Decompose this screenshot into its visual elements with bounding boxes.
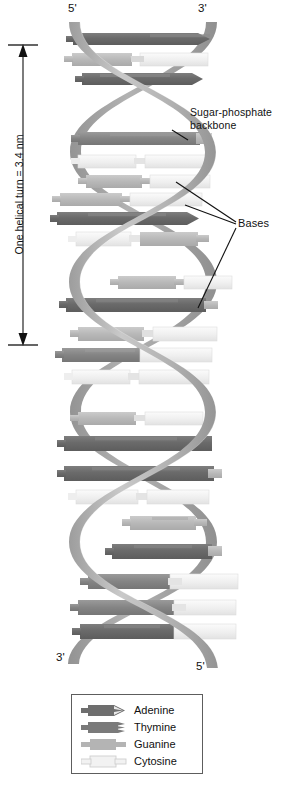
adenine-icon [81,703,127,718]
thymine-icon [81,720,127,735]
backbone-label-line-1: Sugar-phosphate [190,106,272,118]
label-5-prime-top: 5' [68,2,77,15]
legend-label-guanine: Guanine [134,738,176,751]
leader-backbone [172,130,188,140]
leader-bases-3 [198,228,236,308]
legend-label-thymine: Thymine [134,721,176,734]
cytosine-icon [81,754,127,769]
leader-bases-2 [185,205,236,224]
backbone-label-line-2: backbone [190,119,236,131]
legend: Adenine Thymine [71,694,203,774]
legend-item-thymine: Thymine [72,719,202,736]
dna-diagram: 5' 3' 3' 5' Sugar-phosphate backbone Bas… [0,0,282,789]
legend-label-adenine: Adenine [134,704,174,717]
label-3-prime-top: 3' [198,2,207,15]
legend-label-cytosine: Cytosine [134,755,177,768]
annotation-sugar-phosphate-backbone: Sugar-phosphate backbone [190,106,282,131]
annotation-bases: Bases [238,217,269,230]
guanine-icon [81,737,127,752]
legend-item-guanine: Guanine [72,736,202,753]
label-3-prime-bottom: 3' [56,651,65,664]
measurement-label: One helical turn = 3.4 nm [13,105,26,285]
label-5-prime-bottom: 5' [196,660,205,673]
legend-item-cytosine: Cytosine [72,753,202,770]
legend-items: Adenine Thymine [72,695,202,773]
leader-bases-1 [176,182,236,222]
legend-item-adenine: Adenine [72,702,202,719]
